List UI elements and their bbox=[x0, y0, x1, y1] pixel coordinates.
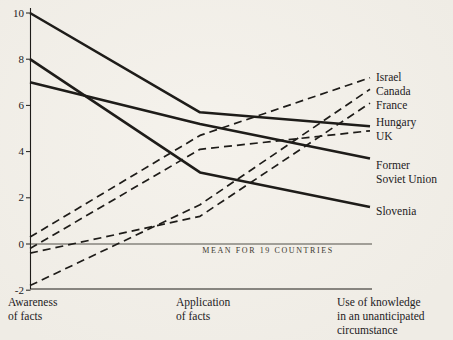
chart-canvas: 1086420-2MEAN FOR 19 COUNTRIESIsraelCana… bbox=[0, 0, 453, 340]
series-line-slovenia bbox=[30, 59, 370, 207]
y-tick-label: 0 bbox=[19, 238, 25, 250]
legend-label-israel: Israel bbox=[376, 71, 402, 83]
y-tick-label: -2 bbox=[15, 284, 24, 296]
series-line-canada bbox=[30, 89, 370, 285]
category-label-2: Use of knowledgein an unanticipatedcircu… bbox=[337, 296, 425, 336]
scanned-page: 1086420-2MEAN FOR 19 COUNTRIESIsraelCana… bbox=[0, 0, 453, 340]
series-line-hungary bbox=[30, 13, 370, 126]
legend-label-hungary: Hungary bbox=[376, 116, 416, 129]
legend-label-canada: Canada bbox=[376, 85, 410, 97]
legend-label-former-soviet-union: FormerSoviet Union bbox=[376, 159, 437, 185]
y-tick-label: 10 bbox=[13, 7, 25, 19]
legend-label-france: France bbox=[376, 99, 407, 111]
y-tick-label: 4 bbox=[19, 145, 25, 157]
category-label-1: Applicationof facts bbox=[176, 296, 231, 322]
legend-label-slovenia: Slovenia bbox=[376, 205, 416, 217]
legend-label-uk: UK bbox=[376, 130, 393, 142]
y-tick-label: 2 bbox=[19, 191, 25, 203]
category-label-0: Awarenessof facts bbox=[8, 296, 58, 322]
y-tick-label: 6 bbox=[19, 99, 25, 111]
country-comparison-line-chart: 1086420-2MEAN FOR 19 COUNTRIESIsraelCana… bbox=[0, 0, 453, 340]
series-line-france bbox=[30, 103, 370, 253]
y-tick-label: 8 bbox=[19, 53, 25, 65]
mean-line-label: MEAN FOR 19 COUNTRIES bbox=[202, 246, 334, 255]
series-line-israel bbox=[30, 78, 370, 237]
